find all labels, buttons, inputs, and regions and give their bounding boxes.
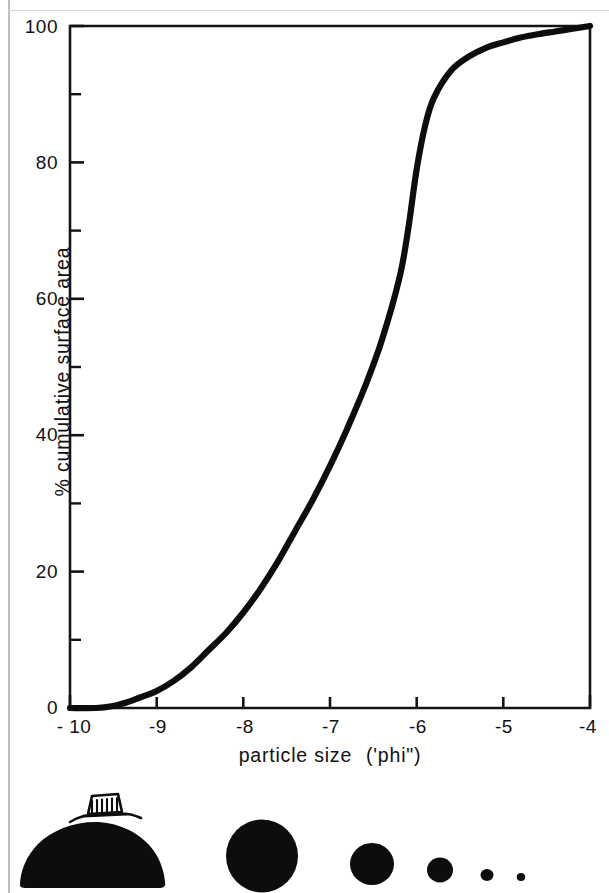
figure-cumulative-surface-area: 100 80 60 40 20 0 - 10 -9 -8 -7 -6 -5 -4… [0,0,609,893]
x-tick-label-minus9: -9 [149,716,167,738]
particle-silhouette-1 [20,822,165,888]
x-tick-label-minus8: -8 [236,716,254,738]
x-tick-label-minus6: -6 [409,716,427,738]
particle-size-silhouette-strip [0,776,609,893]
y-tick-label-20: 20 [4,561,58,583]
plot-canvas [0,0,609,770]
cumulative-curve [70,26,590,708]
particle-silhouette-3 [350,843,394,885]
y-axis-title: % cumulative surface area [51,222,74,522]
y-tick-label-0: 0 [4,697,58,719]
x-axis-title-units: ('phi") [366,744,421,766]
particle-silhouette-canvas [0,776,609,893]
particle-silhouette-6 [517,873,525,881]
x-tick-label-minus10: - 10 [57,716,92,738]
house-sketch-icon [70,794,141,822]
y-tick-label-80: 80 [4,152,58,174]
axis-frame [70,26,590,708]
x-axis-title: particle size('phi") [70,744,590,767]
x-tick-label-minus5: -5 [495,716,513,738]
x-axis-title-main: particle size [239,744,352,766]
y-tick-label-100: 100 [4,16,58,38]
x-tick-label-minus7: -7 [322,716,340,738]
particle-silhouette-4 [427,858,453,883]
particle-silhouette-5 [481,869,494,881]
plot-area: 100 80 60 40 20 0 - 10 -9 -8 -7 -6 -5 -4… [0,0,609,770]
x-tick-label-minus4: -4 [579,716,597,738]
particle-silhouette-2 [226,820,298,893]
